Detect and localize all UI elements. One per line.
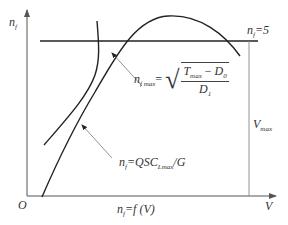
num-T-sub: max xyxy=(190,72,202,80)
qsc-rhs-pre: =QSC xyxy=(127,155,158,169)
qsc-rhs-post: /G xyxy=(173,155,185,169)
vmax-sub: max xyxy=(260,125,272,133)
y-axis-label-sub: f xyxy=(15,23,17,31)
nfmax-formula: nf max= √ Tmax − D0 D1 xyxy=(134,62,229,98)
num-D-sub: 0 xyxy=(223,72,227,80)
nfmax-eq: = xyxy=(155,72,162,86)
origin-label: O xyxy=(18,199,27,211)
qsc-formula: nf=QSCLmax/G xyxy=(119,156,185,171)
nfmax-numerator: Tmax − D0 xyxy=(181,65,228,82)
nf5-rest: =5 xyxy=(255,23,269,37)
y-axis-label: nf xyxy=(9,16,17,31)
qsc-leader xyxy=(82,125,112,158)
load-factor-limit-label: nf=5 xyxy=(247,24,269,39)
sqrt-symbol: √ xyxy=(165,67,179,93)
flight-envelope-diagram xyxy=(0,0,288,225)
qsc-rhs-sub: Lmax xyxy=(158,163,174,171)
den-D-sub: 1 xyxy=(208,90,212,98)
num-D: D xyxy=(215,64,224,78)
num-minus: − xyxy=(205,64,212,78)
vmax-label: Vmax xyxy=(253,118,272,133)
fv-formula: nf=f (V) xyxy=(117,203,155,218)
fv-rhs: =f (V) xyxy=(125,202,155,216)
steep-curve xyxy=(44,21,99,145)
nfmax-denominator: D1 xyxy=(181,82,228,98)
x-axis-label: V xyxy=(265,200,272,212)
nfmax-fraction: Tmax − D0 D1 xyxy=(181,62,228,98)
nfmax-lhs-sub: f max xyxy=(140,80,155,88)
den-D: D xyxy=(199,82,208,96)
